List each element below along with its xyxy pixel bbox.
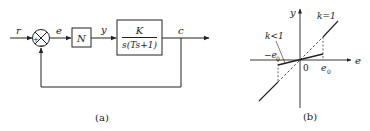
- label-e: e: [56, 25, 62, 36]
- plant-numerator: K: [135, 25, 144, 36]
- feedback-path: [41, 38, 181, 87]
- curve-label-k1: k=1: [317, 11, 336, 21]
- block-N-label: N: [76, 33, 87, 44]
- minus-sign: −: [39, 42, 45, 50]
- axis-label-e: e: [355, 55, 361, 66]
- caption-a: (a): [95, 112, 109, 123]
- svg-text:0: 0: [276, 55, 280, 62]
- svg-text:e: e: [321, 63, 326, 73]
- label-r: r: [16, 25, 22, 36]
- k1-line-upper: [323, 21, 338, 37]
- curve-label-k-less-1: k<1: [265, 31, 284, 41]
- k-less-than-1-line: [278, 54, 323, 65]
- svg-text:−e: −e: [264, 50, 277, 60]
- label-y: y: [100, 24, 107, 35]
- axis-label-y: y: [289, 7, 296, 18]
- control-diagram: r e y c + − N K s(Ts+1) (a) y e 0 k=1 k<…: [0, 0, 370, 131]
- svg-text:0: 0: [327, 68, 331, 75]
- label-c: c: [178, 25, 184, 36]
- tick-label-e0: e 0: [321, 63, 331, 75]
- k1-line-lower: [259, 82, 278, 101]
- caption-b: (b): [303, 111, 317, 122]
- origin-label: 0: [303, 63, 309, 73]
- plant-denominator: s(Ts+1): [122, 40, 157, 50]
